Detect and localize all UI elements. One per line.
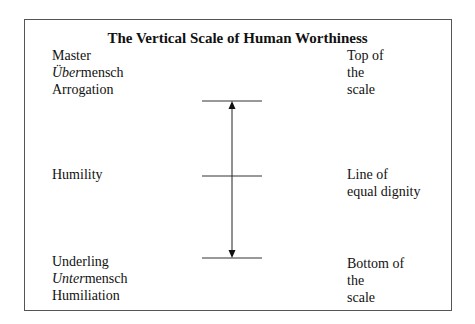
- scale-graphic: [0, 0, 475, 324]
- arrow-up-icon: [229, 101, 236, 109]
- arrow-down-icon: [229, 250, 236, 258]
